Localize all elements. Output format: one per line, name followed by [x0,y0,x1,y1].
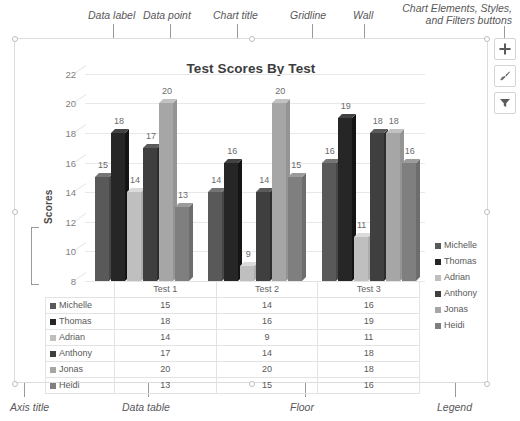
legend-item-label: Thomas [444,256,477,266]
annotation-data-label: Data label [88,9,135,21]
legend-item[interactable]: Adrian [435,269,477,285]
legend-item[interactable]: Anthony [435,285,477,301]
table-row: Anthony171418 [46,346,420,362]
legend-item[interactable]: Jonas [435,301,477,317]
table-row-label: Anthony [59,348,92,358]
series-swatch-icon [50,335,56,341]
legend-swatch-icon [435,291,441,297]
legend-item[interactable]: Heidi [435,317,477,333]
chart-styles-button[interactable] [494,65,516,87]
legend-item[interactable]: Thomas [435,253,477,269]
data-point-bar[interactable] [370,133,384,281]
selection-handle-tl[interactable] [12,36,18,42]
table-row-label: Jonas [59,364,83,374]
data-label[interactable]: 14 [259,175,269,185]
data-table[interactable]: Test 1Test 2Test 3Michelle151416Thomas18… [45,281,420,394]
series-swatch-icon [50,367,56,373]
funnel-icon [499,97,511,109]
data-point-bar[interactable] [111,133,125,281]
plus-icon [499,43,511,55]
data-point-bar[interactable] [159,103,173,281]
table-cell: 18 [318,362,420,378]
data-point-bar[interactable] [208,192,222,281]
selection-handle-tr[interactable] [484,36,490,42]
annotation-wall: Wall [353,9,373,21]
legend-swatch-icon [435,275,441,281]
data-label[interactable]: 16 [325,146,335,156]
data-label[interactable]: 11 [357,220,366,230]
data-point-bar[interactable] [175,207,189,281]
table-row-label: Michelle [59,300,92,310]
table-cell: 13 [115,378,217,394]
data-point-bar[interactable] [240,266,254,281]
table-row-label: Adrian [59,332,85,342]
data-label[interactable]: 15 [98,160,108,170]
data-point-bar[interactable] [224,163,238,281]
selection-handle-mr[interactable] [484,209,490,215]
legend-swatch-icon [435,243,441,249]
data-label[interactable]: 14 [211,175,221,185]
selection-handle-bl[interactable] [12,381,18,387]
legend-item-label: Anthony [444,288,477,298]
data-label[interactable]: 16 [227,146,237,156]
data-point-bar[interactable] [127,192,141,281]
table-cell: 11 [318,330,420,346]
data-point-bar[interactable] [272,103,286,281]
data-point-bar[interactable] [288,177,302,281]
table-row-header: Heidi [46,378,115,394]
table-cell: 17 [115,346,217,362]
chart-filters-button[interactable] [494,92,516,114]
y-axis-tick-label: 10 [65,246,76,257]
annotation-axis-title: Axis title [10,401,49,413]
data-label[interactable]: 16 [405,146,415,156]
y-axis-tick-label: 12 [65,216,76,227]
data-point-bar[interactable] [322,163,336,281]
selection-handle-br[interactable] [484,381,490,387]
table-cell: 14 [216,346,318,362]
table-column-header: Test 3 [318,282,420,298]
series-swatch-icon [50,319,56,325]
annotation-floor: Floor [290,401,314,413]
annotation-data-table: Data table [122,401,170,413]
table-cell: 15 [115,298,217,314]
data-point-bar[interactable] [95,177,109,281]
table-row: Jonas202018 [46,362,420,378]
data-point-bar[interactable] [338,118,352,281]
y-axis-tick-label: 20 [65,98,76,109]
table-cell: 20 [115,362,217,378]
data-label[interactable]: 18 [389,116,399,126]
legend[interactable]: MichelleThomasAdrianAnthonyJonasHeidi [435,237,477,333]
table-row-header: Anthony [46,346,115,362]
table-cell: 16 [318,298,420,314]
data-label[interactable]: 20 [162,86,172,96]
value-axis-title[interactable]: Scores [43,189,54,224]
data-point-bar[interactable] [386,133,400,281]
selection-handle-ml[interactable] [12,209,18,215]
data-point-bar[interactable] [256,192,270,281]
data-point-bar[interactable] [354,237,368,281]
data-label[interactable]: 9 [246,249,251,259]
data-label[interactable]: 15 [291,160,301,170]
table-header-row: Test 1Test 2Test 3 [46,282,420,298]
data-label[interactable]: 18 [114,116,124,126]
data-label[interactable]: 13 [178,190,188,200]
legend-item[interactable]: Michelle [435,237,477,253]
table-column-header: Test 1 [115,282,217,298]
table-cell: 18 [318,346,420,362]
data-label[interactable]: 18 [373,116,383,126]
table-cell: 18 [115,314,217,330]
selection-handle-tc[interactable] [249,36,255,42]
data-point-bar[interactable] [402,163,416,281]
legend-swatch-icon [435,307,441,313]
data-point-bar[interactable] [143,148,157,281]
data-label[interactable]: 19 [341,101,351,111]
chart-object[interactable]: Test Scores By Test Scores 8101214161820… [14,38,488,383]
data-label[interactable]: 14 [130,175,140,185]
data-label[interactable]: 17 [146,131,156,141]
legend-item-label: Michelle [444,240,477,250]
legend-item-label: Adrian [444,272,470,282]
data-label[interactable]: 20 [275,86,285,96]
plot-area[interactable]: 810121416182022 151814172013141691420151… [85,59,425,281]
y-axis-tick-label: 18 [65,128,76,139]
chart-elements-button[interactable] [494,38,516,60]
